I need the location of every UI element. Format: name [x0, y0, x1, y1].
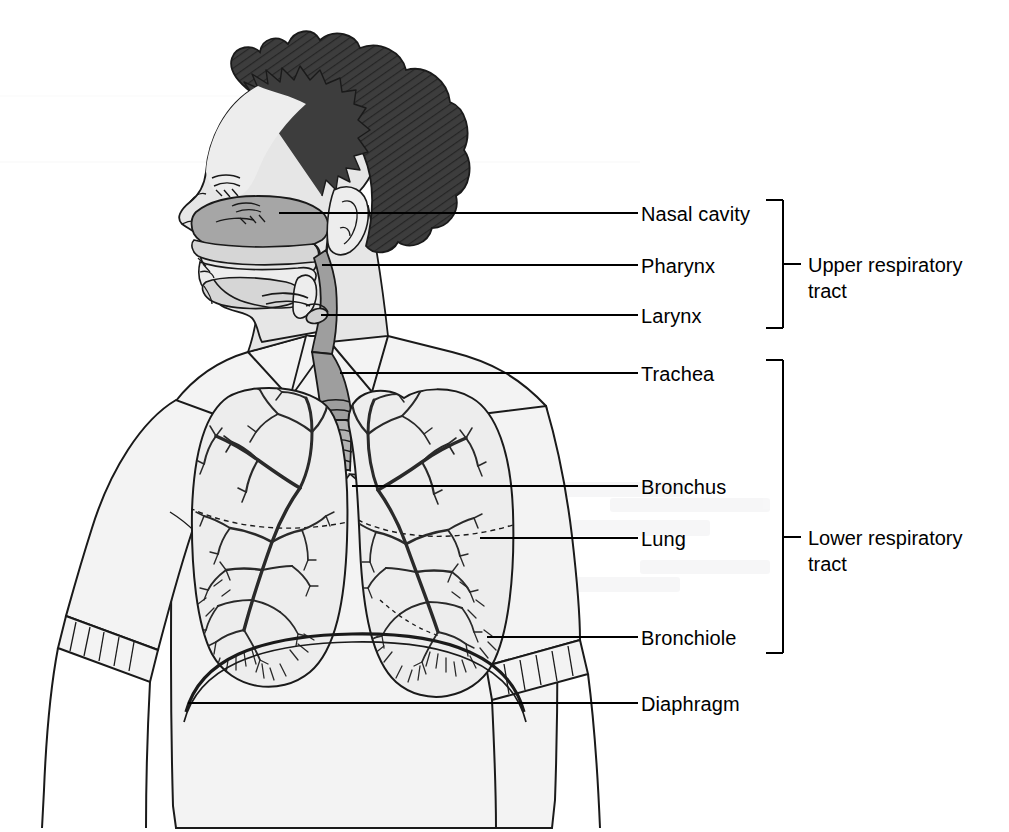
- head-sagittal-section: [179, 31, 469, 354]
- lung-left: [186, 378, 348, 687]
- label-trachea: Trachea: [641, 361, 714, 387]
- label-pharynx: Pharynx: [641, 253, 715, 279]
- upper-tract-line2: tract: [808, 280, 847, 302]
- label-bronchiole: Bronchiole: [641, 625, 737, 651]
- label-bronchus: Bronchus: [641, 474, 726, 500]
- label-diaphragm: Diaphragm: [641, 691, 740, 717]
- label-nasal-cavity: Nasal cavity: [641, 201, 750, 227]
- lower-tract-line1: Lower respiratory: [808, 527, 963, 549]
- bracket-lower-respiratory-tract: [766, 360, 801, 653]
- label-lung: Lung: [641, 526, 686, 552]
- label-larynx: Larynx: [641, 303, 702, 329]
- label-lower-respiratory-tract: Lower respiratory tract: [808, 525, 998, 577]
- bracket-upper-respiratory-tract: [766, 200, 801, 328]
- grouping-brackets: [766, 200, 801, 653]
- lower-tract-line2: tract: [808, 553, 847, 575]
- upper-tract-line1: Upper respiratory: [808, 254, 963, 276]
- respiratory-system-diagram: Nasal cavity Pharynx Larynx Trachea Bron…: [0, 0, 1009, 832]
- label-upper-respiratory-tract: Upper respiratory tract: [808, 252, 998, 304]
- anatomy-illustration: [0, 0, 1009, 832]
